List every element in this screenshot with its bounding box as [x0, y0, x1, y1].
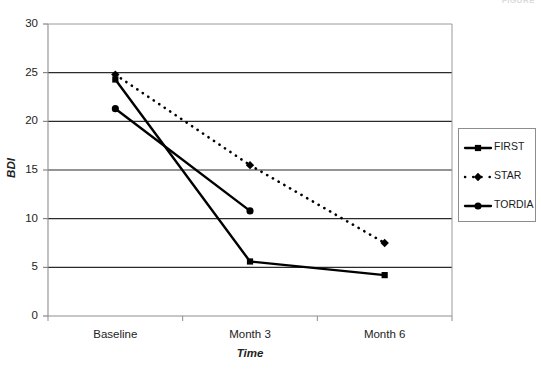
y-tick-label: 0	[8, 310, 38, 322]
series-line-segment	[250, 165, 385, 243]
circle-marker	[474, 202, 481, 209]
square-marker	[247, 258, 253, 264]
y-tick-label: 20	[8, 115, 38, 127]
chart-legend: FIRSTSTARTORDIA	[458, 128, 536, 222]
y-tick-label: 10	[8, 213, 38, 225]
legend-item-tordia[interactable]: TORDIA	[463, 197, 533, 211]
y-tick-label: 30	[8, 18, 38, 30]
series-line-segment	[250, 261, 385, 275]
legend-sample-tordia-icon	[463, 198, 493, 210]
series-line-segment	[115, 75, 250, 166]
legend-item-first[interactable]: FIRST	[463, 139, 524, 153]
legend-sample-star-icon	[463, 169, 493, 181]
x-tick-label: Baseline	[93, 328, 137, 340]
x-tick-label: Month 3	[229, 328, 271, 340]
axis-ticks	[43, 24, 452, 321]
legend-sample-first-icon	[463, 140, 493, 152]
square-marker	[475, 145, 481, 151]
diamond-marker	[474, 173, 482, 181]
y-tick-label: 25	[8, 67, 38, 79]
legend-label: FIRST	[494, 140, 524, 152]
y-tick-label: 5	[8, 261, 38, 273]
legend-item-star[interactable]: STAR	[463, 168, 521, 182]
series-line-segment	[115, 109, 250, 211]
chart-figure: FIGURE 051015202530 BaselineMonth 3Month…	[0, 0, 541, 371]
square-marker	[382, 272, 388, 278]
legend-label: STAR	[494, 169, 521, 181]
y-axis-title: BDI	[5, 148, 17, 188]
x-tick-label: Month 6	[364, 328, 406, 340]
circle-marker	[246, 207, 253, 214]
x-axis-title: Time	[237, 347, 264, 359]
data-series-layer	[111, 70, 389, 278]
series-star	[111, 70, 389, 247]
circle-marker	[112, 105, 119, 112]
series-first	[112, 76, 388, 278]
legend-label: TORDIA	[494, 198, 533, 210]
gridlines	[48, 24, 452, 267]
